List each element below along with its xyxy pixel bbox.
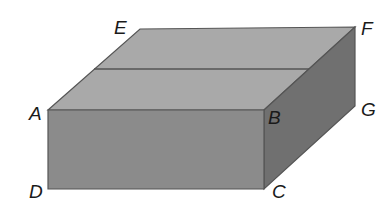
vertex-label-d: D [29, 182, 43, 201]
front-face [48, 110, 264, 189]
vertex-label-f: F [361, 19, 373, 38]
prism-diagram: E F A B G D C [0, 0, 392, 212]
vertex-label-c: C [272, 182, 286, 201]
vertex-label-a: A [29, 104, 42, 123]
vertex-label-b: B [268, 108, 281, 127]
prism-figure [0, 0, 392, 212]
vertex-label-e: E [114, 18, 127, 37]
vertex-label-g: G [361, 100, 376, 119]
